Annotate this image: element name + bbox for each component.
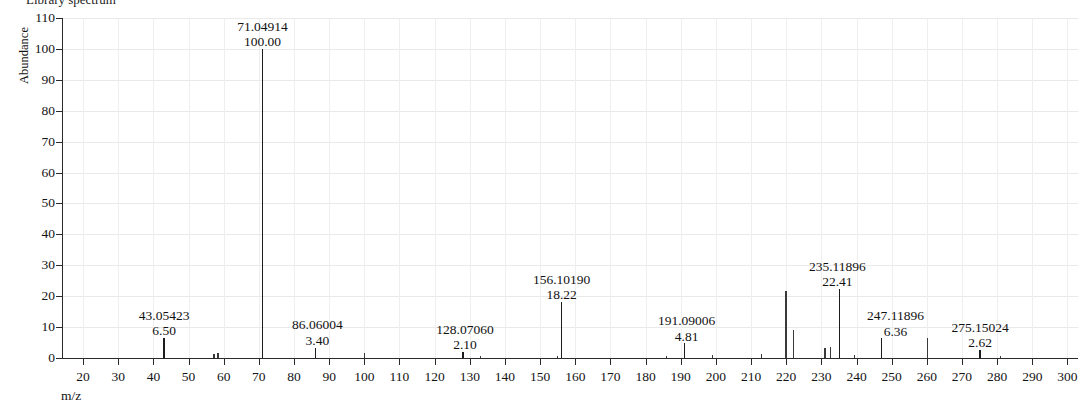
x-axis-tick bbox=[118, 359, 119, 365]
x-gridline bbox=[751, 18, 752, 358]
y-gridline bbox=[62, 234, 1078, 235]
x-axis-tick bbox=[153, 359, 154, 365]
x-axis-tick bbox=[962, 359, 963, 365]
peak-abundance-value: 3.40 bbox=[292, 333, 343, 349]
x-axis-tick bbox=[892, 359, 893, 365]
x-axis-tick-label: 30 bbox=[111, 370, 125, 384]
spectrum-peak bbox=[262, 49, 263, 358]
x-gridline bbox=[505, 18, 506, 358]
y-axis-tick-label: 100 bbox=[35, 42, 55, 56]
x-axis-tick-label: 210 bbox=[741, 370, 761, 384]
spectrum-peak bbox=[830, 347, 831, 358]
peak-abundance-value: 4.81 bbox=[658, 329, 715, 345]
x-gridline bbox=[857, 18, 858, 358]
x-axis-tick bbox=[364, 359, 365, 365]
x-gridline bbox=[575, 18, 576, 358]
y-axis-title: Abundance bbox=[17, 1, 32, 111]
x-gridline bbox=[83, 18, 84, 358]
peak-mz-value: 128.07060 bbox=[436, 322, 493, 338]
x-axis-tick-label: 180 bbox=[635, 370, 655, 384]
x-axis-tick bbox=[610, 359, 611, 365]
spectrum-peak bbox=[785, 291, 786, 358]
peak-abundance-value: 6.36 bbox=[867, 324, 924, 340]
y-axis-line bbox=[62, 18, 63, 359]
peak-mz-value: 275.15024 bbox=[951, 320, 1008, 336]
x-axis-tick bbox=[857, 359, 858, 365]
y-axis-tick bbox=[56, 234, 62, 235]
x-axis-tick-label: 170 bbox=[600, 370, 620, 384]
y-gridline bbox=[62, 111, 1078, 112]
x-gridline bbox=[329, 18, 330, 358]
x-axis-tick bbox=[224, 359, 225, 365]
peak-mz-value: 43.05423 bbox=[139, 308, 190, 324]
peak-label: 247.118966.36 bbox=[867, 308, 924, 339]
x-axis-tick bbox=[1067, 359, 1068, 365]
peak-label: 43.054236.50 bbox=[139, 308, 190, 339]
x-axis-tick-label: 220 bbox=[776, 370, 796, 384]
y-axis-tick-label: 60 bbox=[42, 166, 56, 180]
x-axis-tick bbox=[927, 359, 928, 365]
x-axis-tick-label: 270 bbox=[952, 370, 972, 384]
figure-title: Library spectrum bbox=[26, 0, 116, 6]
x-axis-tick-label: 280 bbox=[987, 370, 1007, 384]
spectrum-peak bbox=[927, 338, 928, 358]
y-axis-tick bbox=[56, 203, 62, 204]
peak-abundance-value: 18.22 bbox=[533, 287, 590, 303]
x-gridline bbox=[435, 18, 436, 358]
x-axis-tick bbox=[681, 359, 682, 365]
x-gridline bbox=[927, 18, 928, 358]
y-gridline bbox=[62, 327, 1078, 328]
x-gridline bbox=[610, 18, 611, 358]
y-axis-tick-label: 50 bbox=[42, 196, 56, 210]
y-axis-tick bbox=[56, 296, 62, 297]
x-axis-tick bbox=[1032, 359, 1033, 365]
x-gridline bbox=[681, 18, 682, 358]
y-axis-tick-label: 10 bbox=[42, 320, 56, 334]
x-axis-tick-label: 20 bbox=[76, 370, 90, 384]
x-axis-tick bbox=[575, 359, 576, 365]
x-axis-tick-label: 100 bbox=[354, 370, 374, 384]
x-axis-tick bbox=[259, 359, 260, 365]
x-axis-tick-label: 230 bbox=[811, 370, 831, 384]
x-axis-tick-label: 50 bbox=[182, 370, 196, 384]
x-gridline bbox=[399, 18, 400, 358]
x-gridline bbox=[716, 18, 717, 358]
y-axis-tick-label: 70 bbox=[42, 135, 56, 149]
y-gridline bbox=[62, 173, 1078, 174]
x-axis-tick-label: 140 bbox=[495, 370, 515, 384]
x-gridline bbox=[1067, 18, 1068, 358]
x-axis-tick-label: 290 bbox=[1022, 370, 1042, 384]
x-axis-tick-label: 300 bbox=[1057, 370, 1077, 384]
x-gridline bbox=[364, 18, 365, 358]
y-axis-tick bbox=[56, 111, 62, 112]
x-axis-tick-label: 40 bbox=[147, 370, 161, 384]
x-gridline bbox=[470, 18, 471, 358]
spectrum-peak bbox=[793, 330, 794, 358]
y-axis-tick-label: 20 bbox=[42, 289, 56, 303]
x-axis-tick-label: 60 bbox=[217, 370, 231, 384]
mass-spectrum-figure: Library spectrum Abundance 43.054236.507… bbox=[0, 0, 1083, 405]
x-axis-tick bbox=[716, 359, 717, 365]
plot-area: 43.054236.5071.04914100.0086.060043.4012… bbox=[62, 18, 1078, 358]
x-axis-tick bbox=[646, 359, 647, 365]
plot-inner: 43.054236.5071.04914100.0086.060043.4012… bbox=[62, 18, 1078, 358]
peak-abundance-value: 100.00 bbox=[237, 34, 288, 50]
x-gridline bbox=[224, 18, 225, 358]
x-axis-tick-label: 80 bbox=[287, 370, 301, 384]
y-axis-tick bbox=[56, 18, 62, 19]
x-axis-tick-label: 250 bbox=[882, 370, 902, 384]
y-axis-tick-label: 90 bbox=[42, 73, 56, 87]
peak-mz-value: 86.06004 bbox=[292, 317, 343, 333]
x-axis-tick bbox=[399, 359, 400, 365]
x-gridline bbox=[962, 18, 963, 358]
x-axis-tick bbox=[435, 359, 436, 365]
y-gridline bbox=[62, 265, 1078, 266]
x-axis-tick-label: 240 bbox=[846, 370, 866, 384]
y-axis-tick bbox=[56, 327, 62, 328]
y-gridline bbox=[62, 49, 1078, 50]
peak-abundance-value: 22.41 bbox=[809, 274, 866, 290]
x-axis-tick-label: 110 bbox=[390, 370, 410, 384]
peak-abundance-value: 2.10 bbox=[436, 337, 493, 353]
peak-abundance-value: 6.50 bbox=[139, 323, 190, 339]
spectrum-peak bbox=[979, 350, 980, 358]
